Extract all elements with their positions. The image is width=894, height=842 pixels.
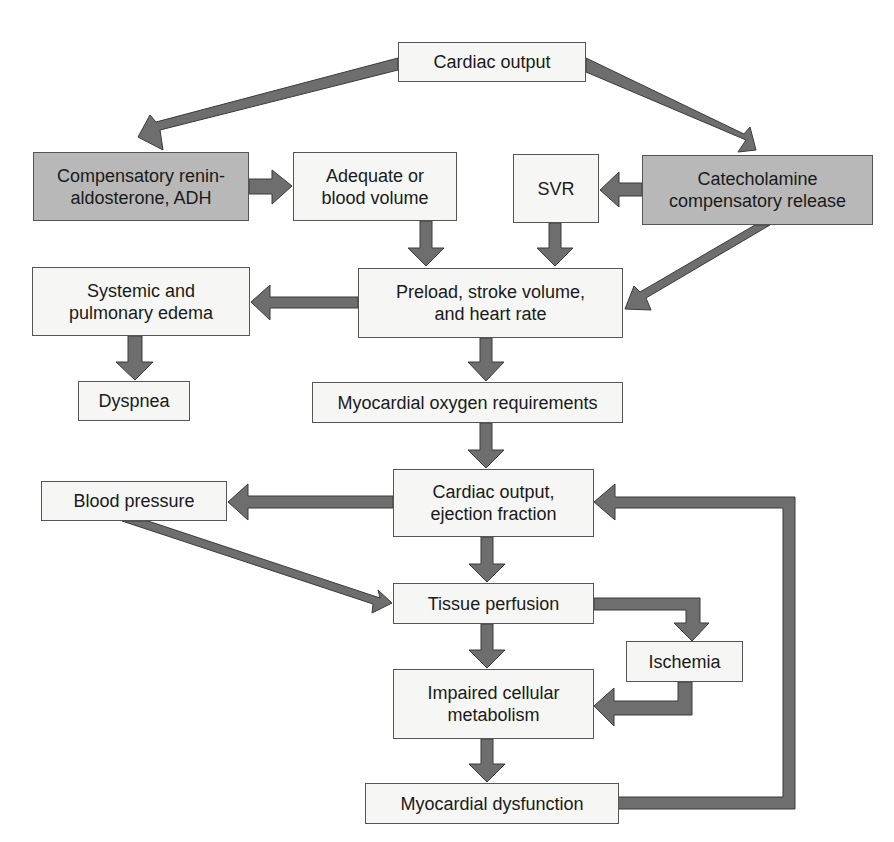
node-catecholamine: Catecholamine compensatory release (642, 155, 873, 225)
node-renin-aldosterone: Compensatory renin- aldosterone, ADH (33, 152, 249, 221)
arrow-perfusion-to-metabolism (469, 624, 505, 668)
node-ischemia: Ischemia (626, 641, 743, 682)
arrow-bp-to-perfusion (122, 521, 392, 613)
arrow-cardiac-to-catecholamine (586, 58, 756, 152)
arrow-edema-to-dyspnea (116, 336, 153, 380)
arrow-catecholamine-to-preload (625, 225, 770, 310)
arrow-volume-to-preload (408, 221, 444, 266)
arrow-preload-to-edema (251, 285, 358, 320)
node-edema: Systemic and pulmonary edema (32, 267, 250, 336)
arrow-preload-to-oxygen (468, 338, 504, 381)
node-preload: Preload, stroke volume, and heart rate (358, 268, 623, 338)
node-blood-pressure: Blood pressure (41, 481, 227, 521)
arrow-coef-to-perfusion (469, 537, 505, 582)
arrow-svr-to-preload (537, 223, 573, 266)
node-blood-volume: Adequate or blood volume (293, 152, 457, 221)
node-cardiac-output-ef: Cardiac output, ejection fraction (393, 469, 594, 537)
arrow-renin-to-volume (249, 170, 292, 204)
arrow-ischemia-to-metabolism (594, 682, 692, 726)
arrow-coef-to-bp (228, 484, 393, 520)
node-dyspnea: Dyspnea (78, 381, 190, 421)
node-myocardial-oxygen: Myocardial oxygen requirements (312, 382, 623, 423)
arrow-cardiac-to-renin (138, 58, 398, 150)
arrow-oxygen-to-co-ef (468, 423, 504, 468)
node-myocardial-dysfunction: Myocardial dysfunction (365, 783, 619, 824)
node-tissue-perfusion: Tissue perfusion (393, 583, 594, 624)
node-impaired-metabolism: Impaired cellular metabolism (393, 669, 594, 739)
arrow-metabolism-to-dysfunction (469, 739, 505, 782)
arrow-catecholamine-to-svr (600, 172, 642, 207)
node-cardiac-output: Cardiac output (398, 42, 586, 82)
node-svr: SVR (513, 154, 599, 223)
arrow-perfusion-to-ischemia (594, 598, 709, 641)
